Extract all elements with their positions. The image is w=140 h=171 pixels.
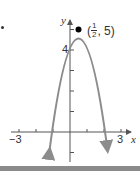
x-tick-label-3: 3 xyxy=(117,134,123,145)
vertex-fraction-denominator: 2 xyxy=(92,31,96,39)
x-tick-label-neg3: −3 xyxy=(9,134,22,145)
parabola-plot xyxy=(0,0,140,171)
y-tick-label-4: 4 xyxy=(62,44,68,55)
parabola-curve xyxy=(50,39,108,151)
bottom-divider xyxy=(0,166,140,171)
vertex-point xyxy=(76,27,82,33)
vertex-rest: , 5) xyxy=(97,25,114,37)
x-axis-label: x xyxy=(131,134,136,145)
exercise-bullet xyxy=(1,26,4,29)
vertex-label: ( 1 2 , 5) xyxy=(87,22,115,39)
y-axis-label: y xyxy=(61,15,66,26)
